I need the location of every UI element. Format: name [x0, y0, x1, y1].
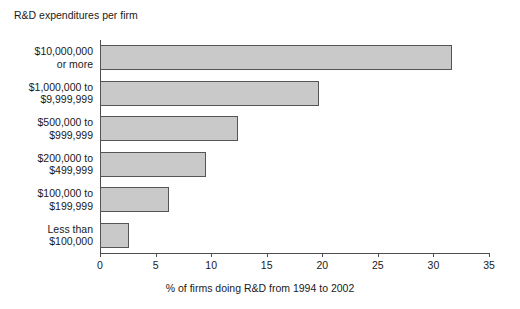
- x-tick-30: [433, 253, 434, 257]
- y-category-label-4: $100,000 to $199,999: [0, 187, 93, 212]
- bar-1[interactable]: [100, 81, 319, 106]
- x-tick-10: [211, 253, 212, 257]
- x-tick-label-5: 5: [153, 259, 159, 271]
- x-axis-title: % of firms doing R&D from 1994 to 2002: [0, 282, 520, 294]
- y-category-label-3: $200,000 to $499,999: [0, 152, 93, 177]
- bar-row-4: [100, 182, 489, 218]
- bar-row-3: [100, 147, 489, 183]
- y-category-label-1-line1: $1,000,000 to: [0, 81, 93, 94]
- y-category-label-0: $10,000,000 or more: [0, 45, 93, 70]
- x-tick-label-20: 20: [316, 259, 328, 271]
- x-tick-25: [378, 253, 379, 257]
- bar-row-2: [100, 111, 489, 147]
- y-category-label-4-line1: $100,000 to: [0, 187, 93, 200]
- bar-2[interactable]: [100, 116, 238, 141]
- x-tick-5: [156, 253, 157, 257]
- y-category-label-0-line1: $10,000,000: [0, 45, 93, 58]
- x-tick-label-35: 35: [483, 259, 495, 271]
- bar-row-0: [100, 40, 489, 76]
- x-tick-label-25: 25: [372, 259, 384, 271]
- y-category-label-3-line2: $499,999: [0, 164, 93, 177]
- bar-row-5: [100, 218, 489, 254]
- x-tick-35: [489, 253, 490, 257]
- bar-chart: R&D expenditures per firm $10,000,000 or…: [0, 0, 520, 309]
- y-category-label-0-line2: or more: [0, 58, 93, 71]
- y-category-label-2-line1: $500,000 to: [0, 116, 93, 129]
- bar-5[interactable]: [100, 223, 129, 248]
- bar-row-1: [100, 76, 489, 112]
- y-category-label-5-line2: $100,000: [0, 235, 93, 248]
- y-category-label-5: Less than $100,000: [0, 223, 93, 248]
- x-tick-label-10: 10: [205, 259, 217, 271]
- bar-0[interactable]: [100, 45, 452, 70]
- chart-title: R&D expenditures per firm: [14, 9, 138, 21]
- x-tick-label-15: 15: [261, 259, 273, 271]
- y-category-label-4-line2: $199,999: [0, 200, 93, 213]
- y-category-label-5-line1: Less than: [0, 223, 93, 236]
- y-category-label-3-line1: $200,000 to: [0, 152, 93, 165]
- x-tick-0: [100, 253, 101, 257]
- y-axis-category-labels: $10,000,000 or more $1,000,000 to $9,999…: [0, 40, 95, 253]
- plot-area: 05101520253035: [100, 40, 489, 253]
- y-category-label-2: $500,000 to $999,999: [0, 116, 93, 141]
- x-tick-15: [267, 253, 268, 257]
- bar-3[interactable]: [100, 152, 206, 177]
- x-axis-line: [100, 253, 489, 254]
- x-tick-20: [322, 253, 323, 257]
- y-category-label-1: $1,000,000 to $9,999,999: [0, 81, 93, 106]
- bar-4[interactable]: [100, 187, 169, 212]
- x-tick-label-30: 30: [428, 259, 440, 271]
- y-category-label-2-line2: $999,999: [0, 129, 93, 142]
- x-tick-label-0: 0: [97, 259, 103, 271]
- y-category-label-1-line2: $9,999,999: [0, 93, 93, 106]
